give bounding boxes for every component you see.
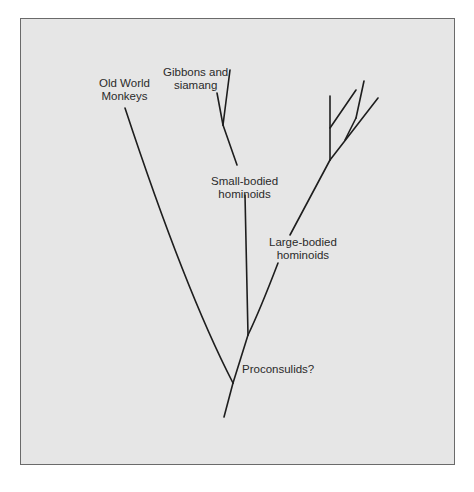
great-ape-split-c [356,81,364,118]
label-line: siamang [163,79,228,92]
great-ape-split-a [330,90,356,128]
label-old-world-monkeys: Old World Monkeys [99,77,150,103]
old-world-monkeys-branch [125,108,233,383]
label-large-bodied-hominoids: Large-bodied hominoids [269,236,337,262]
root-branch [224,383,233,417]
label-line: Monkeys [99,90,150,103]
label-line: Old World [99,77,150,90]
label-line: hominoids [269,249,337,262]
great-ape-split-b [330,98,378,160]
label-line: hominoids [211,188,278,201]
label-line: Large-bodied [269,236,337,249]
small-bodied-branch [245,195,248,335]
label-line: Small-bodied [211,175,278,188]
small-bodied-upper [223,125,237,165]
label-small-bodied-hominoids: Small-bodied hominoids [211,175,278,201]
gibbons-branch-2 [217,93,223,125]
label-line: Gibbons and [163,66,228,79]
label-gibbons-siamang: Gibbons and siamang [163,66,228,92]
large-bodied-lower [248,263,278,335]
label-line: Proconsulids? [242,363,314,376]
label-proconsulids: Proconsulids? [242,363,314,376]
large-bodied-upper [290,160,330,235]
phylogenetic-tree [0,0,474,492]
